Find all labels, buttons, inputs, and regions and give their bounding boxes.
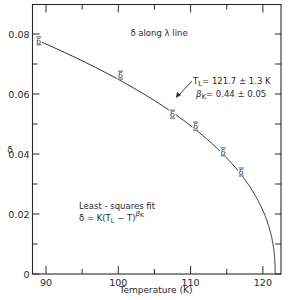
svg-text:δ: δ (170, 110, 175, 119)
delta-vs-temperature-chart: 90100110120 00.020.040.060.08 δδδδδδ Tem… (0, 0, 296, 300)
svg-text:δ: δ (221, 148, 226, 157)
svg-text:δ: δ (193, 122, 198, 131)
svg-text:δ: δ (36, 37, 41, 46)
fit-label: Least - squares fit (79, 201, 156, 211)
y-tick-label: 0.06 (8, 89, 29, 100)
annotation-arrow (176, 81, 192, 98)
svg-text:δ: δ (239, 168, 244, 177)
y-axis-ticks (33, 34, 282, 274)
data-point: δ (117, 71, 123, 81)
data-point: δ (192, 122, 198, 132)
y-axis-title: δ (7, 145, 13, 155)
x-tick-label: 90 (40, 277, 52, 288)
svg-text:βK= 0.44 ± 0.05: βK= 0.44 ± 0.05 (195, 89, 266, 101)
data-point: δ (169, 110, 175, 120)
svg-text:δ: δ (118, 71, 123, 80)
data-point: δ (238, 168, 244, 178)
beta-annotation: βK= 0.44 ± 0.05 (195, 89, 266, 101)
tl-annotation: TL= 121.7 ± 1.3 K (192, 76, 271, 88)
data-point: δ (36, 36, 42, 46)
x-tick-label: 120 (254, 277, 272, 288)
svg-text:TL= 121.7 ± 1.3 K: TL= 121.7 ± 1.3 K (192, 76, 271, 88)
x-axis-title: Temperature (K) (119, 285, 193, 295)
chart-title-annotation: δ along λ line (130, 28, 187, 38)
data-points: δδδδδδ (36, 36, 245, 177)
fit-formula: δ = K(TL − T)βK (79, 210, 145, 225)
plot-frame (33, 5, 282, 275)
y-tick-label: 0.02 (8, 209, 29, 220)
y-tick-label: 0.08 (8, 29, 29, 40)
y-tick-label: 0 (23, 269, 29, 280)
x-axis-ticks (46, 5, 263, 275)
data-point: δ (220, 147, 226, 157)
